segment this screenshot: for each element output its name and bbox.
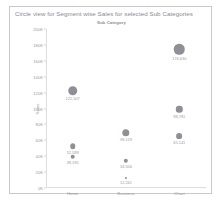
page-title: Circle view for Segment wise Sales for s…: [15, 10, 209, 18]
data-point-marker[interactable]: [174, 44, 185, 55]
x-tick-label: Home: [67, 191, 78, 197]
data-point[interactable]: 12,241: [125, 177, 127, 179]
data-point-label: 174,630: [172, 55, 186, 60]
data-point[interactable]: 174,630: [174, 44, 185, 55]
data-point-marker[interactable]: [68, 86, 78, 96]
y-tick-mark: [44, 156, 46, 157]
y-tick-label: 80K: [36, 122, 43, 127]
data-point-marker[interactable]: [176, 133, 182, 139]
y-tick-label: 140K: [33, 74, 43, 79]
data-point-marker[interactable]: [70, 155, 75, 160]
y-tick-mark: [44, 188, 46, 189]
y-tick-mark: [44, 44, 46, 45]
y-tick-mark: [44, 124, 46, 125]
y-tick-label: 60K: [36, 138, 43, 143]
data-point[interactable]: 122,507: [68, 86, 78, 96]
data-point[interactable]: 65,141: [176, 133, 182, 139]
data-point-label: 98,781: [173, 114, 185, 119]
y-tick-label: 100K: [33, 106, 43, 111]
data-point-label: 39,195: [67, 160, 79, 165]
data-point[interactable]: 34,506: [124, 158, 128, 162]
data-point-label: 12,241: [120, 180, 132, 185]
y-tick-label: 160K: [33, 58, 43, 63]
y-tick-label: 20K: [36, 170, 43, 175]
data-point-marker[interactable]: [122, 129, 129, 136]
x-tick-label: Business: [117, 191, 134, 197]
data-point-label: 65,141: [173, 140, 185, 145]
data-point[interactable]: 52,599: [70, 143, 76, 149]
screenshot-root: Circle view for Segment wise Sales for s…: [0, 0, 224, 203]
data-point-label: 34,506: [120, 164, 132, 169]
data-point-marker[interactable]: [70, 143, 76, 149]
data-point-marker[interactable]: [176, 106, 182, 112]
x-axis-line: [46, 187, 206, 188]
plot-inner: 200K180K160K140K120K100K80K60K40K20K0K H…: [46, 29, 206, 188]
y-tick-mark: [44, 76, 46, 77]
plot-area: Sales 200K180K160K140K120K100K80K60K40K2…: [46, 29, 206, 188]
x-tick-label: Chart: [174, 191, 185, 197]
y-tick-mark: [44, 108, 46, 109]
data-point[interactable]: 98,781: [176, 106, 182, 112]
data-point-label: 122,507: [66, 96, 80, 101]
y-axis-line: [46, 29, 47, 188]
chart-card: Circle view for Segment wise Sales for s…: [9, 6, 212, 194]
data-point[interactable]: 39,195: [70, 155, 75, 160]
y-tick-label: 40K: [36, 154, 43, 159]
y-tick-mark: [44, 60, 46, 61]
data-point-marker[interactable]: [124, 158, 128, 162]
y-tick-mark: [44, 140, 46, 141]
y-tick-label: 180K: [33, 42, 43, 47]
y-tick-mark: [44, 29, 46, 30]
y-tick-label: 120K: [33, 90, 43, 95]
data-point-marker[interactable]: [125, 177, 127, 179]
data-point-label: 69,119: [120, 138, 132, 143]
y-tick-label: 200K: [33, 27, 43, 32]
data-point[interactable]: 69,119: [122, 129, 129, 136]
chart-subtitle: Sub Category: [10, 20, 213, 26]
y-tick-mark: [44, 172, 46, 173]
y-tick-label: 0K: [38, 186, 43, 191]
y-tick-mark: [44, 92, 46, 93]
